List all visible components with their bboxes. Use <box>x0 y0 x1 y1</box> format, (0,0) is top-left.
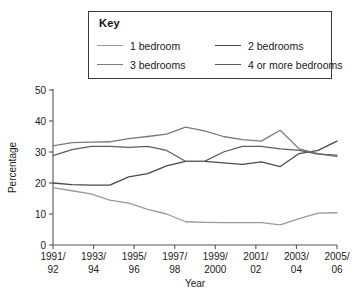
series-line-1-bedroom <box>53 188 337 225</box>
y-tick-label: 20 <box>35 178 47 189</box>
x-tick-label: 1999/2000 <box>203 251 228 275</box>
x-tick-label: 1993/94 <box>81 251 106 275</box>
legend-row: 3 bedrooms 4 or more bedrooms <box>97 55 325 74</box>
y-tick-label: 30 <box>35 147 47 158</box>
y-axis-title: Percentage <box>7 141 18 193</box>
chart-legend: Key 1 bedroom 2 bedrooms 3 bedrooms <box>88 11 332 79</box>
x-tick-label: 1995/96 <box>122 251 147 275</box>
data-series-group <box>53 127 337 225</box>
x-tick-label: 2005/06 <box>324 251 349 275</box>
legend-entries: 1 bedroom 2 bedrooms 3 bedrooms 4 or mor… <box>97 36 325 74</box>
y-tick-label: 10 <box>35 209 47 220</box>
legend-label: 3 bedrooms <box>130 59 185 71</box>
legend-line-swatch-icon <box>97 45 123 46</box>
y-axis-ticks: 01020304050 <box>35 85 53 251</box>
y-tick-label: 40 <box>35 116 47 127</box>
plot-area: 01020304050 1991/921993/941995/961997/98… <box>0 82 360 307</box>
legend-label: 1 bedroom <box>130 40 180 52</box>
series-line-2-bedrooms <box>53 141 337 185</box>
legend-label: 2 bedrooms <box>248 40 303 52</box>
legend-title: Key <box>99 17 120 29</box>
x-tick-label: 1997/98 <box>162 251 187 275</box>
line-chart: Key 1 bedroom 2 bedrooms 3 bedrooms <box>0 0 360 307</box>
legend-row: 1 bedroom 2 bedrooms <box>97 36 325 55</box>
x-tick-label: 2001/02 <box>243 251 268 275</box>
legend-line-swatch-icon <box>215 64 241 65</box>
legend-item-4-or-more-bedrooms: 4 or more bedrooms <box>215 59 325 71</box>
y-tick-label: 0 <box>40 240 46 251</box>
plot-svg: 01020304050 1991/921993/941995/961997/98… <box>0 82 360 307</box>
legend-item-2-bedrooms: 2 bedrooms <box>215 40 325 52</box>
legend-line-swatch-icon <box>97 64 123 65</box>
x-tick-label: 2003/04 <box>284 251 309 275</box>
x-axis-title: Year <box>185 278 206 289</box>
x-tick-label: 1991/92 <box>40 251 65 275</box>
legend-item-3-bedrooms: 3 bedrooms <box>97 59 215 71</box>
legend-item-1-bedroom: 1 bedroom <box>97 40 215 52</box>
legend-line-swatch-icon <box>215 45 241 46</box>
x-axis-ticks: 1991/921993/941995/961997/981999/2000200… <box>40 245 349 275</box>
series-line-4-or-more-bedrooms <box>53 146 337 161</box>
series-line-3-bedrooms <box>53 127 337 156</box>
y-tick-label: 50 <box>35 85 47 96</box>
legend-label: 4 or more bedrooms <box>248 59 343 71</box>
